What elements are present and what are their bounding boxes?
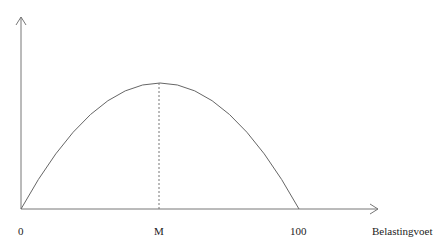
tick-label-100: 100 [290, 225, 307, 237]
tick-label-m: M [154, 225, 164, 237]
x-axis-title: Belastingvoet [372, 225, 433, 237]
tick-label-0: 0 [18, 225, 24, 237]
laffer-curve [21, 83, 299, 209]
laffer-chart [0, 0, 448, 250]
